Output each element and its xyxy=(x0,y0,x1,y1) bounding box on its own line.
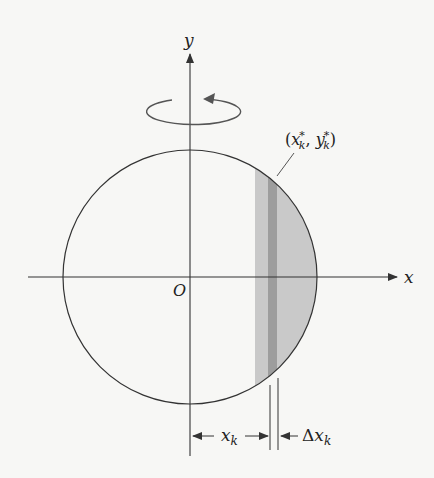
shaded-region xyxy=(255,140,325,420)
leader-line xyxy=(277,153,294,176)
point-label: (x*k, y*k) xyxy=(285,129,336,152)
x-axis-label: x xyxy=(404,267,414,287)
origin-label: O xyxy=(173,281,186,300)
xk-label: xk xyxy=(221,425,238,448)
y-axis-label: y xyxy=(183,30,194,50)
rotation-arrow-icon xyxy=(147,93,241,125)
dxk-label: Δxk xyxy=(302,425,331,448)
diagram-canvas: y x O (x*k, y*k) xk Δxk xyxy=(0,0,434,478)
shell-method-diagram: y x O (x*k, y*k) xk Δxk xyxy=(0,0,434,478)
